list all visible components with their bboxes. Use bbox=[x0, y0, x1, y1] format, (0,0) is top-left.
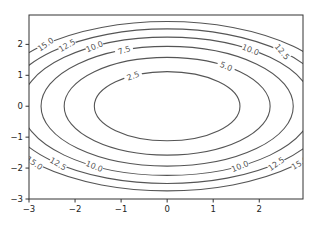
x-tick-label: −3 bbox=[23, 204, 36, 214]
contour-line-7.5 bbox=[41, 46, 293, 166]
y-tick-label: 1 bbox=[18, 70, 23, 80]
contour-label: 10.0 bbox=[85, 39, 105, 54]
x-tick-label: 2 bbox=[257, 204, 262, 214]
y-tick-label: −2 bbox=[10, 163, 23, 173]
x-tick-label: 0 bbox=[164, 204, 169, 214]
contour-label: 15.0 bbox=[24, 155, 44, 173]
contour-label: 10.0 bbox=[241, 43, 261, 58]
contour-label: 12.5 bbox=[273, 42, 291, 61]
y-tick-label: 2 bbox=[18, 39, 23, 49]
contour-label: 7.5 bbox=[117, 44, 132, 56]
contour-label: 15.0 bbox=[290, 155, 310, 172]
contour-line-2.5 bbox=[94, 72, 240, 141]
y-tick-label: 0 bbox=[18, 101, 23, 111]
x-tick-label: −2 bbox=[69, 204, 82, 214]
contour-label: 10.0 bbox=[230, 159, 250, 174]
contour-chart: 2.55.07.510.012.515.010.012.510.012.515.… bbox=[0, 0, 315, 227]
x-tick-label: 1 bbox=[210, 204, 215, 214]
x-axis: −3−2−1012 bbox=[23, 199, 262, 214]
x-tick-label: −1 bbox=[115, 204, 128, 214]
contour-label: 10.0 bbox=[84, 159, 104, 174]
y-tick-label: −3 bbox=[10, 194, 23, 204]
y-tick-label: −1 bbox=[10, 132, 23, 142]
y-axis: −3−2−1012 bbox=[10, 39, 29, 204]
